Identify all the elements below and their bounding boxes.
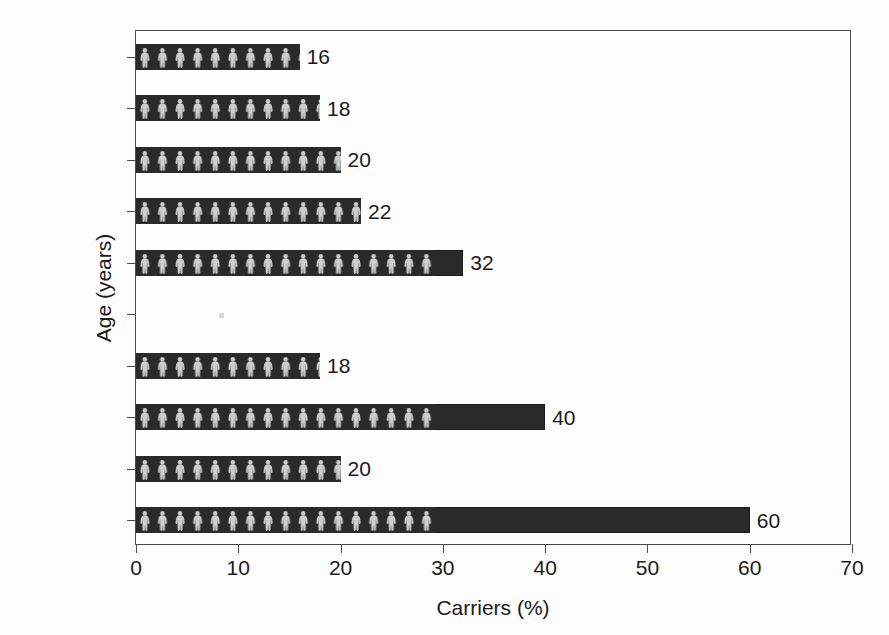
bar-row: 32 — [136, 250, 494, 276]
bar-fill-pattern — [136, 147, 341, 173]
y-axis-tick — [127, 366, 136, 367]
bar-fill-pattern — [136, 44, 300, 70]
y-axis-tick — [127, 469, 136, 470]
x-axis-tick-label: 50 — [636, 557, 659, 578]
y-axis-tick — [127, 108, 136, 109]
y-axis-tick — [127, 520, 136, 521]
bar — [136, 404, 545, 430]
bar-row: 40 — [136, 404, 576, 430]
x-axis-tick — [136, 544, 137, 553]
plot-area: Age (years) Carriers (%) 0–11–1010–2020–… — [135, 30, 851, 545]
y-axis-tick — [127, 263, 136, 264]
bar-value-label: 60 — [757, 510, 780, 531]
x-axis-tick-label: 70 — [840, 557, 863, 578]
bar-fill-pattern — [136, 456, 341, 482]
x-axis-tick — [341, 544, 342, 553]
y-axis-tick — [127, 57, 136, 58]
bar — [136, 507, 750, 533]
scan-artifact — [219, 313, 224, 318]
bar-fill-pattern — [136, 507, 436, 533]
bar — [136, 95, 320, 121]
bar-value-label: 32 — [470, 252, 493, 273]
x-axis-tick-label: 0 — [130, 557, 142, 578]
bar-row: 16 — [136, 44, 330, 70]
bar — [136, 147, 341, 173]
bar-row: 22 — [136, 198, 391, 224]
bar-row: 18 — [136, 353, 350, 379]
x-axis-title: Carriers (%) — [436, 596, 549, 620]
x-axis-tick — [545, 544, 546, 553]
bar-row: 18 — [136, 95, 350, 121]
bar-value-label: 20 — [348, 149, 371, 170]
bar — [136, 44, 300, 70]
x-axis-tick-label: 60 — [738, 557, 761, 578]
y-axis-tick — [127, 211, 136, 212]
bar-fill-pattern — [136, 404, 436, 430]
y-axis-tick — [127, 314, 136, 315]
bar — [136, 353, 320, 379]
bar-value-label: 18 — [327, 355, 350, 376]
bar-row: 20 — [136, 456, 371, 482]
bar-row: 20 — [136, 147, 371, 173]
bar-fill-pattern — [136, 353, 320, 379]
bar-value-label: 22 — [368, 201, 391, 222]
y-axis-tick — [127, 417, 136, 418]
x-axis-tick — [750, 544, 751, 553]
x-axis-tick — [443, 544, 444, 553]
x-axis-tick-label: 20 — [329, 557, 352, 578]
x-axis-tick — [647, 544, 648, 553]
chart-figure: Age (years) Carriers (%) 0–11–1010–2020–… — [0, 0, 889, 635]
bar-value-label: 20 — [348, 458, 371, 479]
bar-row: 60 — [136, 507, 780, 533]
bar-value-label: 16 — [307, 46, 330, 67]
x-axis-tick — [238, 544, 239, 553]
bar-fill-pattern — [136, 198, 361, 224]
x-axis-tick-label: 10 — [227, 557, 250, 578]
bar — [136, 250, 463, 276]
bar — [136, 198, 361, 224]
y-axis-title: Age (years) — [92, 233, 116, 342]
bar-value-label: 40 — [552, 407, 575, 428]
x-axis-tick-label: 40 — [533, 557, 556, 578]
bar — [136, 456, 341, 482]
x-axis-tick-label: 30 — [431, 557, 454, 578]
bar-fill-pattern — [136, 250, 436, 276]
y-axis-tick — [127, 160, 136, 161]
bar-fill-pattern — [136, 95, 320, 121]
x-axis-tick — [852, 544, 853, 553]
bar-value-label: 18 — [327, 98, 350, 119]
